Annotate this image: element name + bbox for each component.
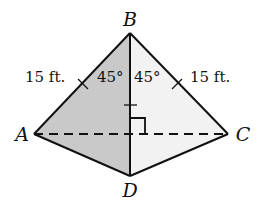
length-label-bc: 15 ft.: [190, 68, 230, 86]
length-label-ab: 15 ft.: [25, 68, 65, 86]
vertex-label-b: B: [122, 8, 137, 30]
vertex-label-c: C: [236, 123, 251, 145]
angle-label-abd: 45°: [97, 68, 124, 86]
angle-label-cbd: 45°: [134, 68, 161, 86]
vertex-label-a: A: [13, 123, 29, 145]
pyramid-diagram: B A C D 15 ft. 45° 45° 15 ft.: [0, 0, 265, 210]
vertex-label-d: D: [121, 179, 137, 201]
